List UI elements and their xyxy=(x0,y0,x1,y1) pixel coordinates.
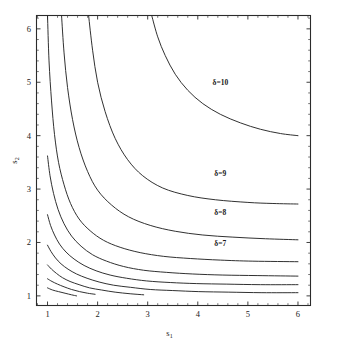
contour-curve-0 xyxy=(152,16,298,136)
contour-curve-6 xyxy=(48,245,298,293)
contour-labels: δ=10δ=9δ=8δ=7 xyxy=(212,78,228,248)
contour-label-3: δ=7 xyxy=(214,239,226,248)
axis-tick-labels: 123456123456 xyxy=(27,24,300,319)
contour-curve-9 xyxy=(48,288,77,296)
contour-label-1: δ=9 xyxy=(214,169,226,178)
y-tick-label-2: 2 xyxy=(27,237,31,247)
x-tick-label-4: 4 xyxy=(196,309,201,319)
y-axis-title: s2 xyxy=(9,157,21,163)
contour-curve-2 xyxy=(62,16,298,240)
contour-curve-3 xyxy=(48,16,298,262)
y-tick-label-5: 5 xyxy=(27,77,31,87)
x-tick-label-6: 6 xyxy=(296,309,300,319)
contour-lines xyxy=(48,16,298,296)
y-tick-label-3: 3 xyxy=(27,184,31,194)
x-axis-title: s1 xyxy=(166,328,172,340)
x-tick-label-3: 3 xyxy=(146,309,150,319)
y-tick-label-6: 6 xyxy=(27,24,31,34)
x-tick-label-2: 2 xyxy=(95,309,99,319)
y-tick-label-4: 4 xyxy=(27,131,32,141)
x-tick-label-1: 1 xyxy=(45,309,49,319)
y-tick-label-1: 1 xyxy=(27,291,31,301)
x-tick-label-5: 5 xyxy=(246,309,250,319)
contour-label-0: δ=10 xyxy=(212,78,228,87)
contour-plot: 123456123456 δ=10δ=9δ=8δ=7 s1s2 xyxy=(0,0,344,357)
contour-curve-8 xyxy=(48,279,96,294)
figure-container: 123456123456 δ=10δ=9δ=8δ=7 s1s2 xyxy=(0,0,344,357)
contour-curve-7 xyxy=(48,265,144,295)
contour-label-2: δ=8 xyxy=(214,208,226,217)
contour-curve-1 xyxy=(89,16,298,205)
contour-curve-4 xyxy=(48,156,298,276)
